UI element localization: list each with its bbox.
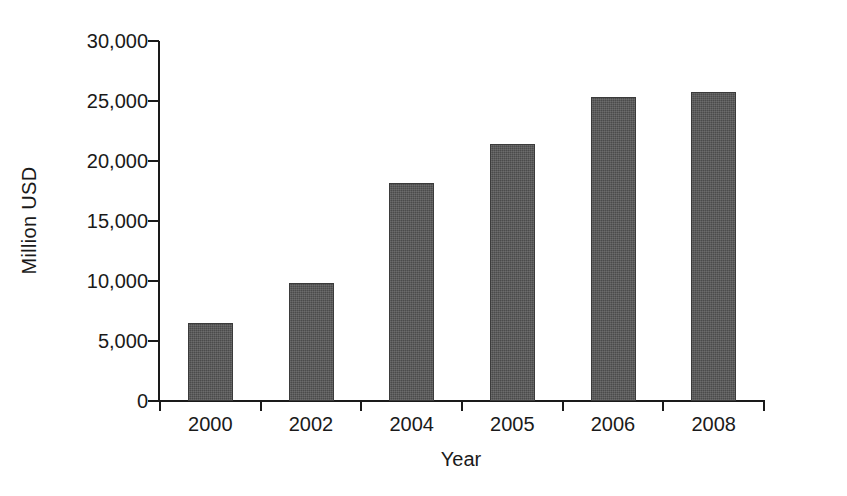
bar-chart: Million USD 05,00010,00015,00020,00025,0…	[0, 0, 847, 496]
y-axis-tick-mark	[148, 40, 159, 42]
x-axis-tick-label: 2008	[664, 410, 764, 438]
x-axis-tick-label: 2000	[160, 410, 260, 438]
x-axis-tick-label: 2002	[261, 410, 361, 438]
bar	[188, 323, 233, 401]
plot-area	[160, 41, 764, 401]
x-axis-tick-label: 2006	[563, 410, 663, 438]
y-axis-tick-mark	[148, 280, 159, 282]
y-axis-tick-mark	[148, 400, 159, 402]
y-axis-tick-label: 5,000	[52, 331, 148, 351]
y-axis-tick-label: 20,000	[52, 151, 148, 171]
x-axis-tick-label: 2005	[462, 410, 562, 438]
y-axis-tick-label: 0	[52, 391, 148, 411]
y-axis-tick-label: 10,000	[52, 271, 148, 291]
y-axis-tick-mark	[148, 160, 159, 162]
bar	[490, 144, 535, 401]
y-axis-tick-labels: 05,00010,00015,00020,00025,00030,000	[52, 0, 148, 440]
y-axis-tick-mark	[148, 220, 159, 222]
y-axis-title-label: Million USD	[19, 166, 42, 274]
y-axis-tick-mark	[148, 100, 159, 102]
x-axis-tick-label: 2004	[362, 410, 462, 438]
y-axis-tick-label: 25,000	[52, 91, 148, 111]
y-axis-tick-mark	[148, 340, 159, 342]
bar	[591, 97, 636, 401]
y-axis-tick-label: 30,000	[52, 31, 148, 51]
x-axis-tick-labels: 200020022004200520062008	[160, 410, 764, 442]
bar	[691, 92, 736, 401]
bar	[389, 183, 434, 401]
x-axis-title: Year	[158, 448, 764, 471]
y-axis-title: Million USD	[0, 0, 60, 440]
bar	[289, 283, 334, 401]
y-axis-tick-label: 15,000	[52, 211, 148, 231]
